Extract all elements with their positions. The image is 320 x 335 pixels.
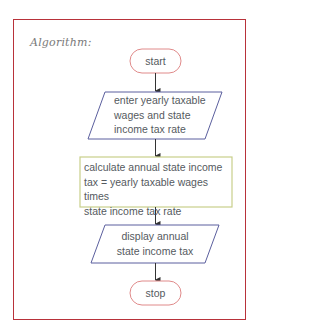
output-line-1: display annual <box>98 229 212 244</box>
output-line-2: state income tax <box>98 244 212 259</box>
calc-line-1: calculate annual state income <box>84 160 234 175</box>
calc-process-text: calculate annual state income tax = year… <box>84 160 234 218</box>
input-io-text: enter yearly taxable wages and state inc… <box>114 93 224 137</box>
calc-line-2: tax = yearly taxable wages times <box>84 175 234 204</box>
start-terminal-label: start <box>130 54 181 69</box>
output-io-text: display annual state income tax <box>98 229 212 258</box>
calc-line-3: state income tax rate <box>84 204 234 219</box>
input-line-2: wages and state <box>114 108 224 123</box>
stop-terminal-label: stop <box>130 286 181 301</box>
input-line-1: enter yearly taxable <box>114 93 224 108</box>
input-line-3: income tax rate <box>114 122 224 137</box>
